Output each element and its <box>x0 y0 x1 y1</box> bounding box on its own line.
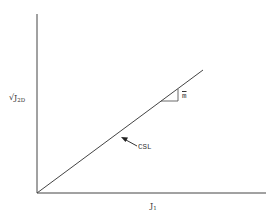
csl-line <box>37 70 203 193</box>
x-axis-label: J1 <box>150 202 157 212</box>
y-axis-label-sub: 2D <box>17 97 25 103</box>
csl-arrow-shaft <box>126 140 137 146</box>
diagram-canvas <box>0 0 279 220</box>
csl-arrow-head-icon <box>121 137 128 142</box>
x-axis-label-sub: 1 <box>153 205 157 211</box>
y-axis-label: √J2D <box>9 94 25 104</box>
csl-label: CSL <box>138 144 152 152</box>
slope-label: m <box>182 93 187 101</box>
